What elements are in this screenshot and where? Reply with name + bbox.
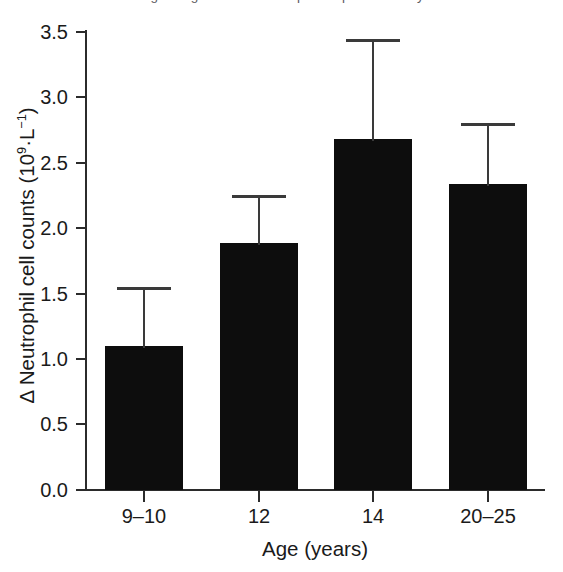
- x-tick-label-14: 14: [362, 505, 384, 528]
- caption-remnant: Figure Age-related neutrophil responses …: [0, 0, 563, 4]
- y-tick-2: [76, 358, 86, 360]
- error-bar-cap-14: [346, 39, 400, 42]
- bar-14[interactable]: [334, 139, 412, 490]
- y-tick-label-0: 0.0: [22, 479, 68, 502]
- x-tick-3: [487, 491, 489, 502]
- y-tick-0: [76, 489, 86, 491]
- bar-12[interactable]: [220, 243, 298, 490]
- y-tick-3: [76, 293, 86, 295]
- figure-container: Figure Age-related neutrophil responses …: [0, 0, 563, 572]
- y-axis-line: [85, 30, 87, 491]
- x-tick-label-20-25: 20–25: [460, 505, 516, 528]
- y-tick-4: [76, 227, 86, 229]
- y-axis-title-text: Δ Neutrophil cell counts (109·L−1): [14, 107, 37, 403]
- x-tick-2: [372, 491, 374, 502]
- y-tick-label-7: 3.5: [22, 21, 68, 44]
- y-axis-title: Δ Neutrophil cell counts (109·L−1): [14, 45, 39, 465]
- bar-20-25[interactable]: [449, 184, 527, 490]
- error-bar-line-14: [372, 39, 374, 141]
- x-tick-1: [258, 491, 260, 502]
- x-tick-label-12: 12: [248, 505, 270, 528]
- error-bar-line-12: [258, 195, 260, 246]
- y-tick-1: [76, 423, 86, 425]
- bar-9-10[interactable]: [105, 346, 183, 490]
- error-bar-line-20-25: [487, 123, 489, 187]
- y-tick-5: [76, 162, 86, 164]
- x-tick-0: [143, 491, 145, 502]
- error-bar-cap-12: [232, 195, 286, 198]
- y-tick-7: [76, 31, 86, 33]
- y-tick-6: [76, 96, 86, 98]
- error-bar-line-9-10: [143, 287, 145, 348]
- x-axis-title: Age (years): [85, 537, 545, 561]
- error-bar-cap-20-25: [461, 123, 515, 126]
- x-tick-label-9-10: 9–10: [122, 505, 167, 528]
- error-bar-cap-9-10: [117, 287, 171, 290]
